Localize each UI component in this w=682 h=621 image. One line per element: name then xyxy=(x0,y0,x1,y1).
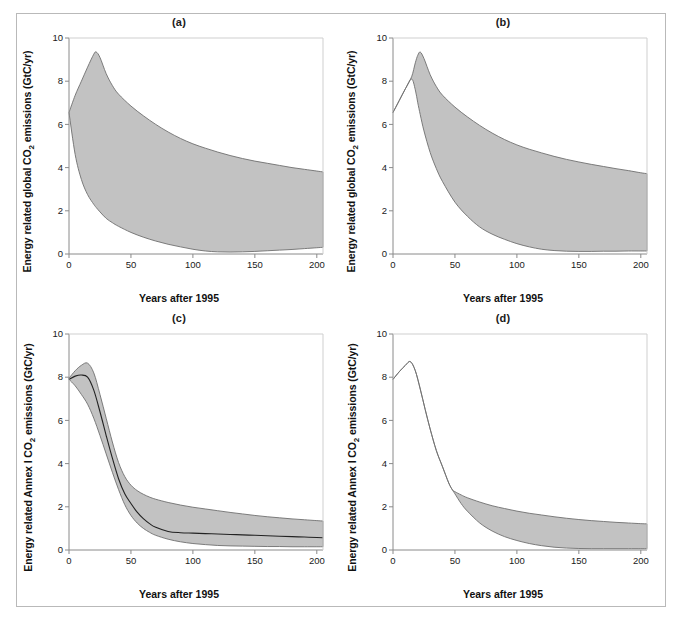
svg-text:2: 2 xyxy=(58,501,63,512)
panel-d-ylabel-text: Energy related Annex I CO2 emissions (Gt… xyxy=(345,344,360,572)
panel-a-ylabel: Energy related global CO2 emissions (GtC… xyxy=(19,14,39,310)
svg-text:2: 2 xyxy=(382,205,387,216)
svg-text:150: 150 xyxy=(247,555,263,566)
svg-text:50: 50 xyxy=(126,259,137,270)
panel-a-svg: 0246810050100150200 xyxy=(39,32,329,274)
svg-text:10: 10 xyxy=(52,32,63,43)
svg-text:8: 8 xyxy=(58,371,63,382)
svg-text:100: 100 xyxy=(509,555,525,566)
svg-text:100: 100 xyxy=(185,259,201,270)
svg-text:200: 200 xyxy=(633,555,649,566)
svg-text:0: 0 xyxy=(382,544,387,555)
svg-text:100: 100 xyxy=(509,259,525,270)
svg-text:6: 6 xyxy=(58,415,63,426)
panel-b-title: (b) xyxy=(341,16,665,28)
svg-text:150: 150 xyxy=(247,259,263,270)
panel-c-plot: 0246810050100150200 xyxy=(39,328,329,570)
svg-text:150: 150 xyxy=(571,259,587,270)
figure-root: (a) Energy related global CO2 emissions … xyxy=(0,0,682,621)
panel-d-title: (d) xyxy=(341,312,665,324)
svg-text:4: 4 xyxy=(382,162,387,173)
svg-text:200: 200 xyxy=(633,259,649,270)
svg-text:0: 0 xyxy=(390,555,395,566)
svg-text:200: 200 xyxy=(309,259,325,270)
panel-a-plot: 0246810050100150200 xyxy=(39,32,329,274)
panel-c-svg: 0246810050100150200 xyxy=(39,328,329,570)
svg-text:150: 150 xyxy=(571,555,587,566)
svg-text:4: 4 xyxy=(58,458,63,469)
svg-text:0: 0 xyxy=(66,259,71,270)
panel-d-plot: 0246810050100150200 xyxy=(363,328,653,570)
svg-text:8: 8 xyxy=(58,75,63,86)
panel-c-title: (c) xyxy=(17,312,341,324)
svg-text:6: 6 xyxy=(58,119,63,130)
svg-text:0: 0 xyxy=(382,248,387,259)
panel-c-ylabel-text: Energy related Annex I CO2 emissions (Gt… xyxy=(21,344,36,572)
svg-text:4: 4 xyxy=(382,458,387,469)
svg-text:6: 6 xyxy=(382,415,387,426)
svg-text:10: 10 xyxy=(376,328,387,339)
panel-grid: (a) Energy related global CO2 emissions … xyxy=(17,14,665,606)
panel-b-xlabel: Years after 1995 xyxy=(341,292,665,304)
svg-text:0: 0 xyxy=(58,544,63,555)
panel-c-ylabel: Energy related Annex I CO2 emissions (Gt… xyxy=(19,310,39,606)
panel-b-ylabel-text: Energy related global CO2 emissions (GtC… xyxy=(345,51,360,273)
svg-text:10: 10 xyxy=(376,32,387,43)
svg-text:50: 50 xyxy=(126,555,137,566)
panel-a: (a) Energy related global CO2 emissions … xyxy=(17,14,341,310)
panel-d-xlabel: Years after 1995 xyxy=(341,588,665,600)
svg-text:4: 4 xyxy=(58,162,63,173)
svg-text:200: 200 xyxy=(309,555,325,566)
svg-text:50: 50 xyxy=(450,555,461,566)
panel-d: (d) Energy related Annex I CO2 emissions… xyxy=(341,310,665,606)
panel-c: (c) Energy related Annex I CO2 emissions… xyxy=(17,310,341,606)
panel-b-plot: 0246810050100150200 xyxy=(363,32,653,274)
svg-text:50: 50 xyxy=(450,259,461,270)
svg-text:0: 0 xyxy=(390,259,395,270)
panel-a-ylabel-text: Energy related global CO2 emissions (GtC… xyxy=(21,51,36,273)
svg-text:2: 2 xyxy=(382,501,387,512)
svg-text:10: 10 xyxy=(52,328,63,339)
panel-c-xlabel: Years after 1995 xyxy=(17,588,341,600)
svg-text:8: 8 xyxy=(382,75,387,86)
panel-d-ylabel: Energy related Annex I CO2 emissions (Gt… xyxy=(343,310,363,606)
svg-text:2: 2 xyxy=(58,205,63,216)
panel-a-xlabel: Years after 1995 xyxy=(17,292,341,304)
svg-text:0: 0 xyxy=(58,248,63,259)
panel-d-svg: 0246810050100150200 xyxy=(363,328,653,570)
svg-text:100: 100 xyxy=(185,555,201,566)
svg-text:6: 6 xyxy=(382,119,387,130)
svg-text:0: 0 xyxy=(66,555,71,566)
panel-b-svg: 0246810050100150200 xyxy=(363,32,653,274)
panel-b: (b) Energy related global CO2 emissions … xyxy=(341,14,665,310)
panel-b-ylabel: Energy related global CO2 emissions (GtC… xyxy=(343,14,363,310)
svg-text:8: 8 xyxy=(382,371,387,382)
panel-a-title: (a) xyxy=(17,16,341,28)
